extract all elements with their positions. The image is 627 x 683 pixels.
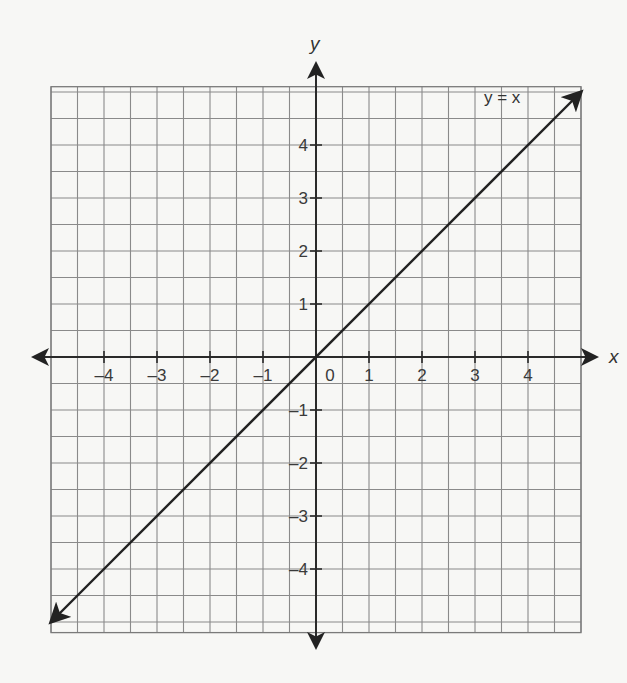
y-tick-label: –1 — [289, 401, 308, 420]
origin-label: 0 — [325, 366, 334, 385]
coordinate-plane-chart: –4–3–2–112344321–1–2–3–40 xyy = x — [0, 0, 627, 683]
y-tick-label: 1 — [299, 295, 308, 314]
y-tick-label: 3 — [299, 189, 308, 208]
y-tick-label: –2 — [289, 454, 308, 473]
y-tick-label: –3 — [289, 507, 308, 526]
x-tick-label: 2 — [417, 366, 426, 385]
x-axis-label: x — [608, 346, 620, 367]
x-tick-label: 1 — [364, 366, 373, 385]
line-equation-label: y = x — [484, 88, 521, 107]
x-tick-label: –1 — [254, 366, 273, 385]
y-tick-label: 4 — [299, 136, 308, 155]
x-tick-label: 3 — [470, 366, 479, 385]
y-tick-label: 2 — [299, 242, 308, 261]
y-axis-label: y — [308, 33, 321, 54]
axes — [34, 64, 596, 647]
x-tick-label: –3 — [148, 366, 167, 385]
x-tick-label: 4 — [523, 366, 532, 385]
x-tick-label: –4 — [95, 366, 114, 385]
y-tick-label: –4 — [289, 560, 308, 579]
x-tick-label: –2 — [201, 366, 220, 385]
